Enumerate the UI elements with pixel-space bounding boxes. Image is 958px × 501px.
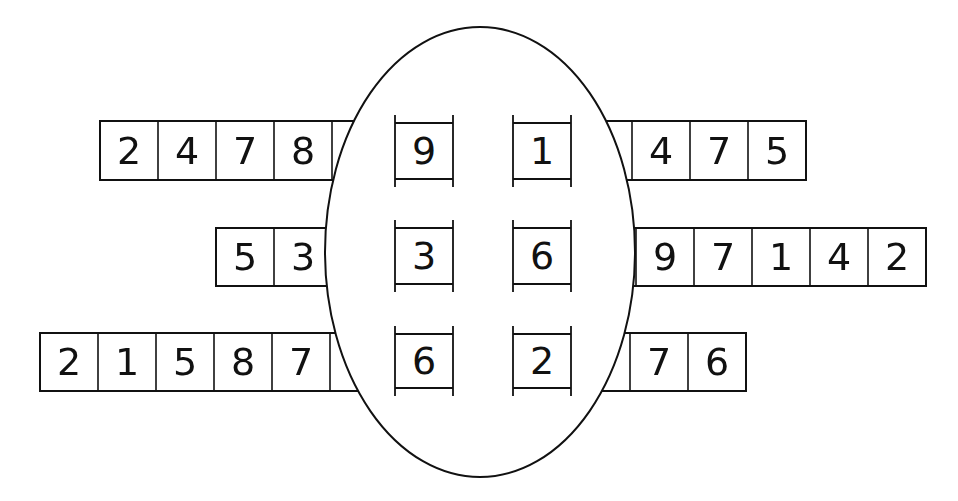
left-digit-cell: 4: [175, 129, 199, 173]
inner-digit: 2: [530, 339, 554, 383]
right-strip: 76: [570, 333, 746, 391]
right-digit-cell: 7: [711, 235, 735, 279]
right-strip: 97142: [576, 228, 926, 286]
right-digit-cell: 4: [649, 129, 673, 173]
right-digit-cell: 2: [885, 235, 909, 279]
central-oval: [325, 27, 635, 477]
inner-digit: 1: [530, 129, 554, 173]
inner-cell: 1: [513, 115, 571, 187]
right-strip: 475: [572, 121, 806, 180]
inner-digit: 9: [412, 129, 436, 173]
right-digit-cell: 1: [769, 235, 793, 279]
inner-digit: 6: [530, 234, 554, 278]
left-digit-cell: 2: [117, 129, 141, 173]
right-digit-cell: 7: [647, 340, 671, 384]
left-digit-cell: 5: [173, 340, 197, 384]
right-digit-cell: 6: [705, 340, 729, 384]
right-digit-cell: 5: [765, 129, 789, 173]
left-digit-cell: 8: [291, 129, 315, 173]
inner-cell: 9: [395, 115, 453, 187]
right-digit-cell: 9: [653, 235, 677, 279]
inner-cell: 6: [395, 326, 453, 396]
inner-cell: 3: [395, 220, 453, 292]
left-digit-cell: 2: [57, 340, 81, 384]
right-digit-cell: 7: [707, 129, 731, 173]
left-digit-cell: 3: [291, 235, 315, 279]
inner-cell: 2: [513, 326, 571, 396]
left-digit-cell: 1: [115, 340, 139, 384]
left-digit-cell: 5: [233, 235, 257, 279]
left-strip: 2478: [100, 121, 392, 180]
puzzle-row-3: 215877662: [40, 326, 746, 396]
left-digit-cell: 8: [231, 340, 255, 384]
left-strip: 53: [216, 228, 392, 286]
inner-digit: 6: [412, 339, 436, 383]
left-digit-cell: 7: [233, 129, 257, 173]
left-digit-cell: 7: [289, 340, 313, 384]
puzzle-diagram: 247847591539714236215877662: [0, 0, 958, 501]
puzzle-row-1: 247847591: [100, 115, 806, 187]
inner-digit: 3: [412, 234, 436, 278]
puzzle-row-2: 539714236: [216, 220, 926, 292]
right-digit-cell: 4: [827, 235, 851, 279]
inner-cell: 6: [513, 220, 571, 292]
